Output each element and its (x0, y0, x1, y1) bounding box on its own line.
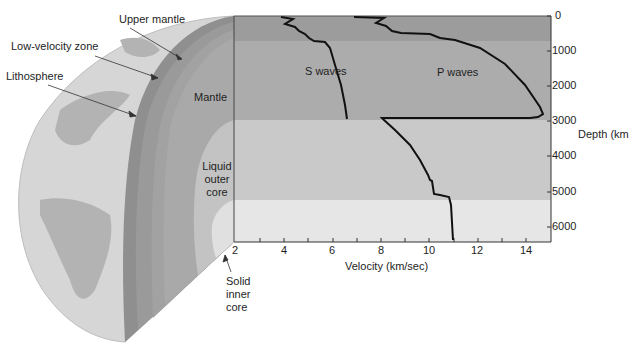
y-tick-2000: 2000 (552, 79, 576, 91)
y-tick-0: 0 (555, 9, 561, 21)
band-inner-core (234, 200, 551, 242)
label-solid-inner-core: Solid inner core (226, 275, 250, 314)
label-lithosphere: Lithosphere (6, 70, 64, 82)
band-upper-mantle (234, 16, 551, 41)
label-low-velocity-zone: Low-velocity zone (11, 40, 98, 52)
x-axis-label: Velocity (km/sec) (345, 260, 428, 272)
y-axis-label: Depth (km (578, 128, 629, 140)
x-tick-14: 14 (520, 244, 532, 256)
x-tick-12: 12 (471, 244, 483, 256)
y-tick-4000: 4000 (552, 149, 576, 161)
earth-interior-diagram (0, 0, 635, 347)
x-tick-8: 8 (378, 244, 384, 256)
y-tick-3000: 3000 (552, 114, 576, 126)
x-tick-10: 10 (423, 244, 435, 256)
label-mantle: Mantle (194, 91, 227, 103)
label-p-waves: P waves (437, 66, 478, 78)
label-upper-mantle: Upper mantle (119, 13, 185, 25)
label-s-waves: S waves (305, 65, 347, 77)
y-tick-5000: 5000 (552, 185, 576, 197)
x-tick-4: 4 (281, 244, 287, 256)
y-tick-6000: 6000 (552, 220, 576, 232)
band-outer-core (234, 120, 551, 200)
x-tick-2: 2 (232, 244, 238, 256)
band-mantle (234, 41, 551, 120)
x-tick-6: 6 (329, 244, 335, 256)
y-tick-1000: 1000 (552, 44, 576, 56)
label-liquid-outer-core: Liquid outer core (198, 160, 236, 199)
